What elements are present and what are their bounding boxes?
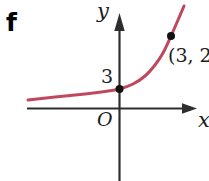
x-axis-label: x (198, 110, 209, 131)
y-intercept-dot (116, 85, 124, 93)
function-graph-figure: f y x O 3 (3, 2 (0, 0, 209, 181)
y-intercept-value-label: 3 (101, 67, 113, 86)
marked-point-coordinates-label: (3, 2 (168, 46, 209, 65)
x-axis-arrowhead-icon (182, 103, 197, 113)
marked-point-dot (167, 32, 175, 40)
figure-label: f (6, 10, 17, 35)
y-axis-arrowhead-icon (114, 13, 124, 31)
y-axis-label: y (97, 1, 109, 22)
origin-label: O (97, 110, 113, 129)
graph-canvas (0, 0, 209, 181)
